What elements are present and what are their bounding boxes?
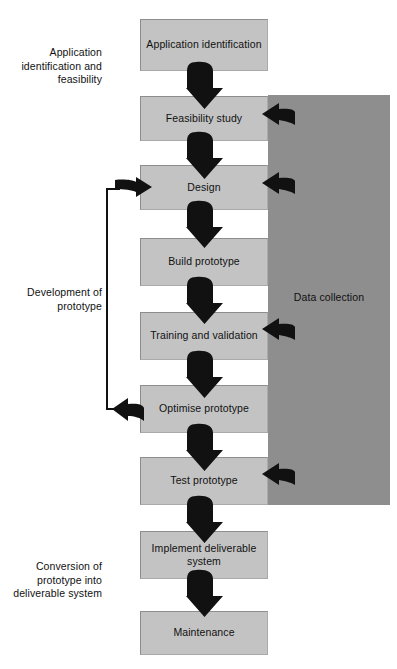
feedback-loop-vertical — [106, 188, 108, 410]
node-label: Maintenance — [169, 626, 238, 640]
stage-label-conversion-of-prototype: Conversion of prototype into deliverable… — [10, 560, 102, 601]
feedback-loop-bottom-horizontal — [106, 408, 122, 410]
stage-label-development-of-prototype: Development of prototype — [10, 286, 102, 313]
data-collection-label: Data collection — [268, 291, 390, 303]
node-label: Feasibility study — [162, 112, 246, 126]
node-application-identification: Application identification — [140, 19, 268, 71]
node-label: Design — [183, 181, 224, 195]
node-implement-deliverable-system: Implement deliverable system — [140, 531, 268, 579]
node-training-and-validation: Training and validation — [140, 312, 268, 360]
node-build-prototype: Build prototype — [140, 238, 268, 286]
node-label: Application identification — [142, 38, 265, 52]
node-design: Design — [140, 165, 268, 210]
node-label: Build prototype — [164, 255, 244, 269]
node-test-prototype: Test prototype — [140, 457, 268, 505]
prototyping-lifecycle-diagram: Data collection Application identificati… — [0, 0, 397, 669]
node-label: Implement deliverable system — [141, 542, 267, 569]
node-label: Training and validation — [146, 329, 262, 343]
node-maintenance: Maintenance — [140, 611, 268, 655]
node-feasibility-study: Feasibility study — [140, 96, 268, 141]
node-label: Test prototype — [166, 474, 241, 488]
stage-label-application-identification: Application identification and feasibili… — [10, 46, 102, 87]
feedback-loop-top-horizontal — [106, 188, 120, 190]
node-label: Optimise prototype — [155, 402, 253, 416]
node-optimise-prototype: Optimise prototype — [140, 385, 268, 433]
